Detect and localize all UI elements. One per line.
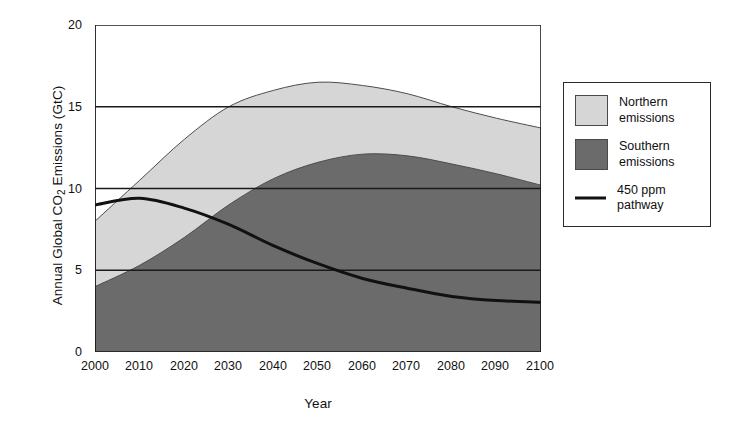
legend-item-southern-emissions[interactable]: Southern emissions (575, 139, 700, 170)
legend-label-pathway: 450 ppm pathway (617, 183, 666, 214)
x-tick-label-2050: 2050 (294, 360, 340, 373)
y-tick-label-0: 0 (48, 346, 82, 359)
y-tick-label-5: 5 (48, 264, 82, 277)
x-tick-label-2090: 2090 (472, 360, 518, 373)
legend-label-pathway-line2: pathway (617, 198, 664, 212)
legend-label-southern-line1: Southern (619, 139, 670, 153)
y-tick-label-20: 20 (48, 19, 82, 32)
legend-label-southern: Southern emissions (619, 139, 675, 170)
legend-label-northern: Northern emissions (619, 95, 675, 126)
legend-label-northern-line1: Northern (619, 95, 668, 109)
x-axis-title: Year (95, 396, 541, 411)
y-axis-title-prefix: Annual Global CO (50, 195, 65, 305)
x-tick-label-2020: 2020 (161, 360, 207, 373)
chart-legend: Northern emissions Southern emissions 45… (563, 82, 711, 227)
y-tick-label-15: 15 (48, 101, 82, 114)
legend-label-pathway-line1: 450 ppm (617, 183, 666, 197)
x-tick-label-2040: 2040 (250, 360, 296, 373)
y-tick-label-10: 10 (48, 183, 82, 196)
legend-item-450ppm-pathway[interactable]: 450 ppm pathway (575, 183, 700, 214)
southern-emissions-swatch-icon (575, 139, 608, 170)
plot-area (95, 25, 541, 352)
plot-svg (95, 25, 541, 352)
chart-figure: Annual Global CO2 Emissions (GtC) 20 15 … (0, 0, 734, 435)
x-tick-label-2070: 2070 (383, 360, 429, 373)
x-tick-label-2100: 2100 (517, 360, 563, 373)
northern-emissions-swatch-icon (575, 95, 608, 126)
x-tick-label-2030: 2030 (205, 360, 251, 373)
legend-item-northern-emissions[interactable]: Northern emissions (575, 95, 700, 126)
x-tick-label-2000: 2000 (72, 360, 118, 373)
y-axis-title: Annual Global CO2 Emissions (GtC) (50, 31, 65, 361)
pathway-line-swatch-icon (575, 184, 606, 213)
legend-label-northern-line2: emissions (619, 111, 675, 125)
legend-label-southern-line2: emissions (619, 155, 675, 169)
x-tick-label-2080: 2080 (428, 360, 474, 373)
x-tick-label-2060: 2060 (339, 360, 385, 373)
x-tick-label-2010: 2010 (116, 360, 162, 373)
